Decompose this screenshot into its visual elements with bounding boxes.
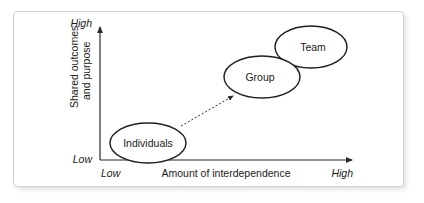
y-axis-low-label: Low: [73, 153, 94, 165]
y-axis-title-line-2: and purpose: [80, 41, 92, 100]
node-team-label: Team: [300, 41, 326, 53]
node-individuals-label: Individuals: [123, 137, 173, 149]
y-axis-high-label: High: [70, 17, 92, 29]
node-individuals[interactable]: Individuals: [110, 123, 186, 163]
diagram-canvas: Shared outcomes and purpose High Low Low…: [0, 0, 424, 203]
progression-arrow-icon: [181, 96, 233, 126]
y-axis-title-line-1: Shared outcomes: [68, 26, 80, 108]
node-group[interactable]: Group: [224, 56, 300, 98]
y-axis-title: Shared outcomes and purpose: [68, 26, 92, 108]
x-axis-title: Amount of interdependence: [161, 167, 290, 179]
figure-root: Shared outcomes and purpose High Low Low…: [0, 0, 424, 203]
node-group-label: Group: [245, 71, 274, 83]
x-axis-high-label: High: [331, 167, 353, 179]
x-axis-low-label: Low: [101, 167, 122, 179]
